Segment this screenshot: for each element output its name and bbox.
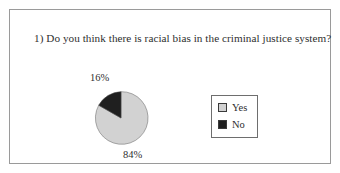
chart-legend: Yes No — [211, 95, 258, 138]
pie-label-no: 16% — [90, 72, 109, 84]
legend-label-no: No — [232, 119, 245, 130]
legend-item-yes: Yes — [218, 102, 247, 113]
pie-label-yes: 84% — [123, 149, 142, 161]
legend-swatch-yes — [218, 103, 227, 112]
pie-chart-svg — [93, 90, 149, 146]
figure-frame: 1) Do you think there is racial bias in … — [9, 9, 331, 164]
figure-screenshot: 1) Do you think there is racial bias in … — [0, 0, 340, 173]
pie-chart: 16% 84% — [88, 70, 158, 165]
page-title: 1) Do you think there is racial bias in … — [34, 31, 334, 45]
legend-label-yes: Yes — [232, 102, 247, 113]
legend-swatch-no — [218, 120, 227, 129]
legend-item-no: No — [218, 119, 245, 130]
